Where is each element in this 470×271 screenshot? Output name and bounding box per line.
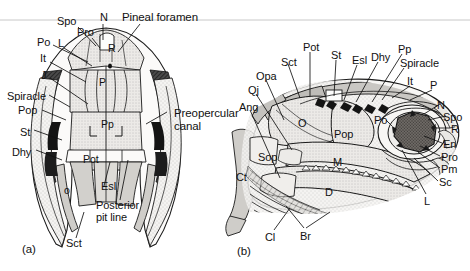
label-a-sct: Sct: [66, 238, 82, 249]
label-a-esl: Esl: [101, 181, 116, 192]
label-b-dhy: Dhy: [371, 52, 390, 63]
label-b-pm: Pm: [441, 164, 457, 175]
label-b-p: P: [430, 80, 437, 91]
label-b-sop: Sop: [258, 152, 277, 163]
label-b-spo: Spo: [443, 112, 462, 123]
label-b-r: R: [451, 124, 459, 135]
label-b-l: L: [424, 196, 430, 207]
label-a-canal: canal: [174, 121, 201, 133]
label-a-pineal-foramen: Pineal foramen: [122, 12, 198, 24]
label-a-st: St: [20, 127, 30, 138]
label-b-spiracle: Spiracle: [400, 58, 439, 69]
label-b-opa: Opa: [256, 71, 277, 82]
label-b-sc: Sc: [439, 177, 452, 188]
label-b-qj: Qj: [248, 85, 259, 96]
label-a-preopercular: Preopercular: [174, 108, 239, 120]
label-b-n: N: [437, 100, 445, 111]
label-a-j: J: [41, 70, 46, 81]
label-a-pro: Pro: [77, 27, 94, 38]
label-b-pot: Pot: [303, 42, 319, 53]
label-a-n: N: [100, 12, 108, 23]
label-a-it: It: [40, 53, 46, 64]
label-b-pro: Pro: [441, 152, 458, 163]
label-b-sct: Sct: [281, 57, 297, 68]
label-b-ang: Ang: [239, 102, 258, 113]
label-a-pot: Pot: [83, 154, 98, 165]
label-b-po: Po: [374, 115, 387, 126]
label-b-pp: Pp: [398, 44, 411, 55]
label-b-en: En: [443, 139, 456, 150]
label-a-pit-line: pit line: [96, 212, 127, 223]
label-b-d: D: [325, 187, 333, 198]
label-b-esl: Esl: [352, 55, 367, 66]
label-b-m: M: [333, 157, 342, 168]
label-b-o: O: [298, 118, 306, 129]
label-b-br: Br: [300, 231, 311, 242]
label-a-spiracle: Spiracle: [7, 91, 46, 102]
label-b-ct: Ct: [236, 172, 247, 183]
figure-canvas: [0, 0, 470, 271]
panel-b-caption: (b): [237, 246, 251, 258]
label-a-spo: Spo: [57, 16, 76, 27]
label-a-r: R: [108, 43, 115, 54]
panel-a-caption: (a): [22, 244, 36, 256]
label-b-cl: Cl: [265, 232, 275, 243]
label-a-pp: Pp: [101, 119, 114, 130]
label-a-pop: Pop: [18, 105, 37, 116]
label-b-it: It: [407, 76, 413, 87]
label-b-st: St: [331, 50, 341, 61]
label-a-dhy: Dhy: [12, 147, 31, 158]
label-a-p: P: [99, 77, 106, 88]
label-a-posterior: Posterior: [96, 200, 139, 211]
label-a-o: o: [64, 185, 70, 196]
label-a-l: L: [58, 38, 64, 49]
label-a-po: Po: [37, 37, 50, 48]
label-b-pop: Pop: [334, 129, 353, 140]
